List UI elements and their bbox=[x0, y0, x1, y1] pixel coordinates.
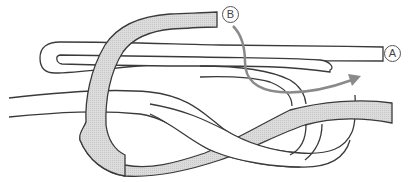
label-end-b: B bbox=[222, 6, 239, 23]
knot-diagram: B A bbox=[0, 0, 411, 182]
inner-loop-lines bbox=[200, 66, 306, 106]
shaded-rope-upper bbox=[80, 12, 217, 176]
label-end-a: A bbox=[384, 45, 401, 62]
knot-illustration bbox=[0, 0, 411, 182]
standing-loop bbox=[40, 42, 383, 73]
